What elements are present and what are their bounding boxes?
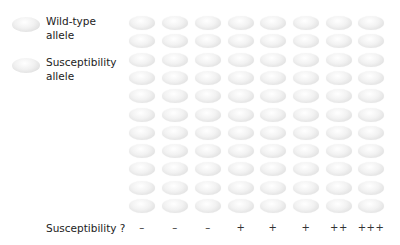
allele-ellipse [260,199,286,213]
allele-ellipse [129,144,155,158]
wild-type-allele-icon [12,17,40,32]
legend-wild-type-line1: Wild-type [46,15,96,27]
allele-ellipse [195,89,221,103]
susceptibility-score: ++ [324,221,354,235]
allele-ellipse [358,162,384,176]
allele-ellipse [358,53,384,67]
allele-ellipse [293,144,319,158]
allele-ellipse [358,199,384,213]
allele-ellipse [326,199,352,213]
allele-ellipse [195,126,221,140]
allele-ellipse [162,71,188,85]
allele-ellipse [162,162,188,176]
allele-ellipse [129,181,155,195]
allele-ellipse [293,199,319,213]
allele-ellipse [228,126,254,140]
allele-ellipse [195,34,221,48]
allele-ellipse [326,71,352,85]
allele-ellipse [195,199,221,213]
legend-susceptibility-label: Susceptibility allele [46,55,116,83]
legend-wild-type-label: Wild-type allele [46,14,96,42]
allele-ellipse [195,71,221,85]
allele-ellipse [195,162,221,176]
allele-ellipse [358,108,384,122]
susceptibility-label: Susceptibility ? [46,221,125,235]
susceptibility-allele-icon [12,58,40,73]
allele-ellipse [260,126,286,140]
susceptibility-score: – [193,221,223,235]
allele-ellipse [293,53,319,67]
allele-ellipse [228,181,254,195]
allele-ellipse [293,16,319,30]
allele-ellipse [358,89,384,103]
allele-ellipse [195,53,221,67]
allele-ellipse [162,34,188,48]
allele-ellipse [260,16,286,30]
allele-ellipse [326,181,352,195]
allele-ellipse [162,126,188,140]
susceptibility-score: – [127,221,157,235]
allele-ellipse [129,108,155,122]
allele-ellipse [326,108,352,122]
susceptibility-score: + [226,221,256,235]
allele-ellipse [260,108,286,122]
allele-ellipse [228,199,254,213]
allele-ellipse [260,162,286,176]
allele-ellipse [358,34,384,48]
allele-ellipse [195,108,221,122]
allele-ellipse [129,126,155,140]
allele-ellipse [162,144,188,158]
allele-ellipse [228,144,254,158]
allele-ellipse [326,126,352,140]
allele-ellipse [293,181,319,195]
allele-ellipse [293,108,319,122]
allele-ellipse [293,162,319,176]
allele-ellipse [129,71,155,85]
allele-ellipse [293,71,319,85]
allele-ellipse [162,53,188,67]
allele-ellipse [162,108,188,122]
allele-ellipse [326,34,352,48]
allele-ellipse [228,53,254,67]
allele-ellipse [129,16,155,30]
allele-ellipse [293,89,319,103]
legend-susceptibility-line1: Susceptibility [46,56,116,68]
allele-ellipse [326,89,352,103]
allele-ellipse [260,89,286,103]
allele-ellipse [228,16,254,30]
allele-ellipse [162,181,188,195]
allele-ellipse [358,126,384,140]
allele-ellipse [129,89,155,103]
allele-ellipse [260,181,286,195]
susceptibility-score: – [160,221,190,235]
allele-ellipse [260,34,286,48]
allele-ellipse [162,16,188,30]
allele-ellipse [228,108,254,122]
allele-ellipse [260,144,286,158]
allele-ellipse [129,34,155,48]
allele-ellipse [260,71,286,85]
legend-susceptibility-line2: allele [46,70,74,82]
allele-ellipse [326,53,352,67]
allele-ellipse [228,89,254,103]
allele-ellipse [293,34,319,48]
allele-ellipse [228,34,254,48]
susceptibility-score: + [291,221,321,235]
allele-ellipse [228,71,254,85]
allele-ellipse [195,181,221,195]
allele-ellipse [358,144,384,158]
allele-ellipse [326,162,352,176]
legend-wild-type-line2: allele [46,29,74,41]
allele-ellipse [228,162,254,176]
allele-ellipse [326,144,352,158]
allele-ellipse [195,16,221,30]
allele-ellipse [293,126,319,140]
allele-ellipse [195,144,221,158]
allele-ellipse [162,89,188,103]
susceptibility-score: +++ [356,221,386,235]
allele-ellipse [326,16,352,30]
allele-ellipse [129,53,155,67]
allele-ellipse [358,71,384,85]
allele-ellipse [260,53,286,67]
allele-ellipse [162,199,188,213]
